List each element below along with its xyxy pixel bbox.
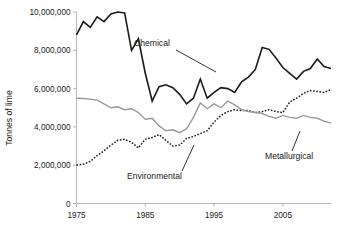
y-tick-label: 6,000,000 — [34, 85, 71, 94]
y-tick-label: 4,000,000 — [34, 123, 71, 132]
y-axis-group: 02,000,0004,000,0006,000,0008,000,00010,… — [30, 8, 77, 209]
x-tick-label: 1975 — [67, 211, 86, 220]
y-axis-title: Tonnes of lime — [4, 90, 14, 146]
x-tick-label: 1985 — [136, 211, 155, 220]
leader-line-chemical — [176, 50, 216, 72]
x-tick-label: 2005 — [274, 211, 293, 220]
x-axis-group: 1975198519952005 — [67, 204, 331, 220]
series-line-metallurgical — [77, 98, 332, 132]
annotation-metallurgical: Metallurgical — [265, 131, 313, 161]
series-lines — [77, 12, 332, 165]
chart-canvas: 02,000,0004,000,0006,000,0008,000,00010,… — [0, 0, 337, 233]
x-tick-label: 1995 — [205, 211, 224, 220]
leader-line-environmental — [182, 145, 194, 171]
y-tick-label: 0 — [66, 200, 71, 209]
series-label-chemical: Chemical — [134, 38, 170, 48]
annotation-environmental: Environmental — [127, 145, 194, 181]
x-axis-tick-labels: 1975198519952005 — [67, 211, 292, 220]
x-axis-ticks — [77, 204, 283, 208]
y-tick-label: 8,000,000 — [34, 46, 71, 55]
y-axis-ticks — [73, 12, 77, 204]
series-label-metallurgical: Metallurgical — [265, 151, 313, 161]
y-tick-label: 10,000,000 — [30, 8, 71, 17]
series-line-chemical — [77, 12, 332, 104]
leader-line-metallurgical — [292, 131, 300, 151]
annotation-chemical: Chemical — [134, 38, 216, 72]
lime-usage-line-chart: 02,000,0004,000,0006,000,0008,000,00010,… — [0, 0, 337, 233]
series-label-environmental: Environmental — [127, 171, 182, 181]
y-axis-tick-labels: 02,000,0004,000,0006,000,0008,000,00010,… — [30, 8, 71, 209]
y-tick-label: 2,000,000 — [34, 161, 71, 170]
